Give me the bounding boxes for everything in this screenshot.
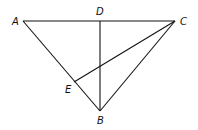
label-d: D <box>96 6 104 17</box>
label-e: E <box>65 84 72 95</box>
triangle-diagram: A D C E B <box>0 0 198 130</box>
label-c: C <box>180 16 187 27</box>
label-a: A <box>11 16 19 27</box>
segment-ab <box>23 21 100 111</box>
segment-cb <box>100 21 175 111</box>
label-b: B <box>97 115 104 126</box>
segment-ce <box>74 21 175 82</box>
